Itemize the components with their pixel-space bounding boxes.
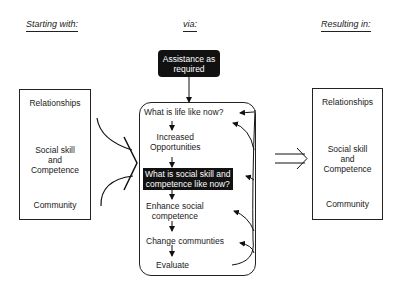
step-change-communities: Change communties: [146, 236, 224, 246]
line: Increased: [150, 132, 201, 142]
line: Social skill: [20, 145, 90, 155]
step-evaluate: Evaluate: [156, 260, 189, 270]
line: and: [313, 154, 382, 164]
step-enhance-social-competence: Enhance social competence: [146, 201, 204, 221]
step-social-skill-now: What is social skill and competence like…: [143, 168, 233, 190]
line: Competence: [20, 165, 90, 175]
line: Opportunities: [150, 142, 201, 152]
line: and: [20, 155, 90, 165]
resulting-box: Relationships Social skill and Competenc…: [312, 88, 383, 220]
assistance-line-2: required: [158, 64, 220, 74]
resulting-item-social-skill: Social skill and Competence: [313, 144, 382, 174]
starting-item-community: Community: [20, 200, 90, 210]
assistance-line-1: Assistance as: [158, 54, 220, 64]
line: competence: [146, 211, 204, 221]
step-increased-opportunities: Increased Opportunities: [150, 132, 201, 152]
starting-item-relationships: Relationships: [20, 98, 90, 108]
line: Competence: [313, 164, 382, 174]
starting-box: Relationships Social skill and Competenc…: [19, 89, 91, 220]
assistance-box: Assistance as required: [158, 50, 220, 77]
resulting-item-relationships: Relationships: [313, 97, 382, 107]
line: What is social skill and: [145, 169, 231, 179]
starting-item-social-skill: Social skill and Competence: [20, 145, 90, 175]
line: Social skill: [313, 144, 382, 154]
resulting-item-community: Community: [313, 199, 382, 209]
step-life-now: What is life like now?: [144, 107, 223, 117]
line: competence like now?: [145, 179, 231, 189]
line: Enhance social: [146, 201, 204, 211]
